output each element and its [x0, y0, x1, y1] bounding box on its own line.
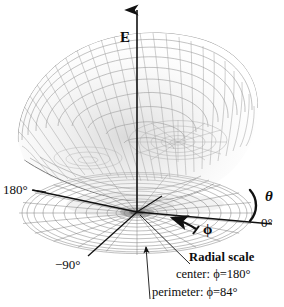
phi-symbol-label: ϕ [203, 222, 212, 237]
theta-arc-bracket [250, 190, 256, 221]
surface-fill [18, 32, 258, 201]
angle-label-0: 0° [261, 216, 273, 229]
radial-scale-perimeter-line: perimeter: ϕ=84° [152, 286, 238, 299]
radial-scale-center-line: center: ϕ=180° [176, 268, 251, 281]
figure-root: E 180° θ 0° −90° ϕ Radial scale center: … [0, 0, 284, 307]
theta-symbol-label: θ [265, 189, 273, 204]
phi-direction-arrow [172, 218, 199, 234]
radial-scale-caption-title: Radial scale [189, 251, 254, 264]
energy-axis-label: E [120, 30, 130, 45]
leader-line-perimeter [146, 247, 150, 299]
angle-label-minus-90: −90° [55, 258, 81, 271]
angle-label-180: 180° [3, 183, 28, 196]
energy-surface-mesh [18, 32, 258, 201]
